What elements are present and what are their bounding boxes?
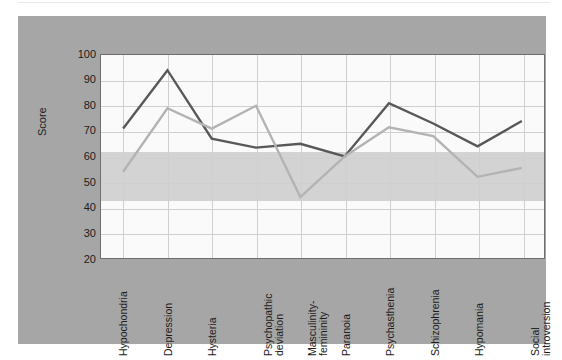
x-tick-label: Masculinity-femininity	[307, 301, 329, 356]
x-tick-label: Hypochondria	[118, 291, 129, 356]
y-tick-label: 100	[62, 49, 96, 60]
x-tick-label-line: Schizophrenia	[430, 289, 441, 356]
scan-top-rule	[18, 2, 550, 3]
x-tick-label-line: Hypochondria	[118, 291, 129, 356]
x-tick-label-line: Depression	[163, 303, 174, 356]
y-tick-label: 70	[62, 125, 96, 136]
x-tick-label: Schizophrenia	[430, 289, 441, 356]
x-tick-label-line: Psychasthenia	[385, 288, 396, 356]
x-tick-label: Socialintroversion	[530, 302, 552, 356]
x-axis-tick-labels: HypochondriaDepressionHysteriaPsychopath…	[100, 261, 545, 360]
y-axis-title: Score	[36, 107, 48, 136]
x-tick-label-line: introversion	[541, 302, 552, 356]
x-tick-label-line: deviation	[274, 294, 285, 356]
x-tick-label: Paranoia	[341, 314, 352, 356]
x-tick-label-line: Hypomania	[474, 303, 485, 356]
x-tick-label: Hypomania	[474, 303, 485, 356]
chart-figure-plate: Score 1009080706050403020 HypochondriaDe…	[18, 16, 546, 344]
y-tick-label: 60	[62, 151, 96, 162]
x-tick-label-line: Hysteria	[207, 317, 218, 356]
y-tick-label: 80	[62, 100, 96, 111]
y-tick-label: 90	[62, 74, 96, 85]
x-tick-label: Hysteria	[207, 317, 218, 356]
x-tick-label: Psychasthenia	[385, 288, 396, 356]
x-tick-label-line: femininity	[318, 301, 329, 356]
x-tick-label: Psychopathicdeviation	[263, 294, 285, 356]
y-tick-label: 40	[62, 202, 96, 213]
x-tick-label: Depression	[163, 303, 174, 356]
series-line-1	[123, 70, 522, 156]
y-tick-label: 50	[62, 177, 96, 188]
y-axis-tick-labels: 1009080706050403020	[58, 54, 96, 259]
y-tick-label: 20	[62, 254, 96, 265]
plot-area	[100, 54, 545, 259]
y-tick-label: 30	[62, 228, 96, 239]
line-series-svg	[101, 55, 544, 258]
series-line-2	[123, 106, 522, 197]
x-tick-label-line: Paranoia	[341, 314, 352, 356]
